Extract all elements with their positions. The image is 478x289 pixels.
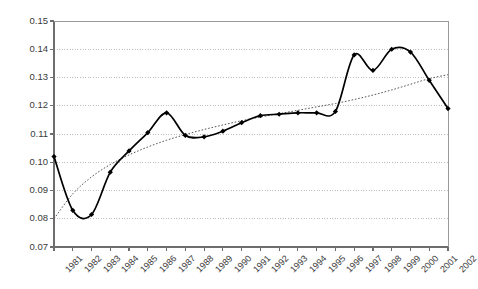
y-axis-tick-label: 0.11 [14, 129, 48, 139]
y-axis-tick-label: 0.07 [14, 242, 48, 252]
x-axis-ticks [54, 247, 448, 251]
y-axis-tick-label: 0.10 [14, 157, 48, 167]
y-axis-tick-label: 0.09 [14, 185, 48, 195]
trend-line-series [54, 75, 448, 219]
y-axis-tick-label: 0.14 [14, 44, 48, 54]
y-axis-tick-label: 0.12 [14, 100, 48, 110]
gridlines [54, 49, 448, 247]
axis-frame [54, 21, 448, 247]
observed-line-series [54, 47, 448, 218]
observed-data-markers [51, 47, 450, 217]
y-axis-tick-label: 0.08 [14, 213, 48, 223]
y-axis-tick-label: 0.15 [14, 16, 48, 26]
y-axis-tick-label: 0.13 [14, 72, 48, 82]
